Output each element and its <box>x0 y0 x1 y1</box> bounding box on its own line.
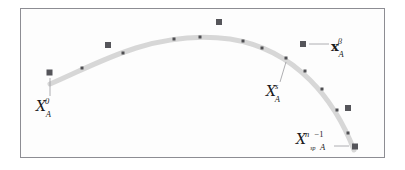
x-superscript-beta: β <box>338 36 342 46</box>
label-chi-start: X0A <box>36 98 55 117</box>
x-subscript-beta: A <box>339 49 344 59</box>
chi-superscript-end: n <box>305 129 309 139</box>
label-chi-end: Xnsp−1A <box>296 131 330 150</box>
chi-superscript-start: 0 <box>45 96 49 106</box>
chi-superscript-sub-end: sp <box>310 145 315 151</box>
figure-root: X0A XsA xβA Xnsp−1A <box>0 0 405 170</box>
label-chi-intermediate: XsA <box>266 83 284 102</box>
label-x-beta: xβA <box>331 38 348 57</box>
chi-superscript-intermediate: s <box>275 81 278 91</box>
chi-subscript-end: A <box>320 142 325 152</box>
chi-subscript-start: A <box>46 109 51 119</box>
chi-superscript-tail-end: −1 <box>315 129 324 139</box>
figure-frame-border <box>20 8 385 158</box>
chi-subscript-intermediate: A <box>275 94 280 104</box>
